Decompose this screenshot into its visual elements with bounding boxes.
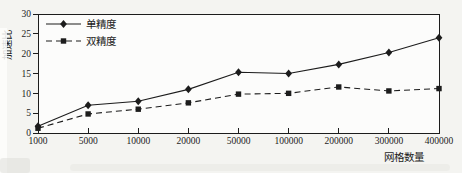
x-tick-label: 200000 — [325, 136, 354, 146]
square-marker — [136, 107, 141, 112]
y-tick-label: 30 — [22, 9, 32, 19]
y-tick-label: 20 — [22, 49, 32, 59]
x-tick-label: 20000 — [177, 136, 201, 146]
y-tick-label: 10 — [22, 89, 32, 99]
legend-item-label: 单精度 — [86, 18, 117, 30]
square-marker — [336, 84, 341, 89]
speedup-chart-figure: 0510152025301000500010000200005000010000… — [0, 0, 462, 173]
x-tick-label: 400000 — [425, 136, 454, 146]
line-chart: 0510152025301000500010000200005000010000… — [0, 0, 462, 173]
x-tick-label: 1000 — [29, 136, 48, 146]
x-tick-label: 300000 — [375, 136, 404, 146]
square-marker — [236, 91, 241, 96]
square-marker — [35, 126, 40, 131]
legend-square-marker — [61, 38, 66, 43]
square-marker — [436, 86, 441, 91]
y-axis-title: 加速比 — [1, 30, 13, 60]
x-tick-label: 100000 — [274, 136, 303, 146]
square-marker — [286, 91, 291, 96]
x-tick-label: 5000 — [79, 136, 98, 146]
legend-item-label: 双精度 — [86, 35, 117, 47]
x-tick-label: 50000 — [227, 136, 251, 146]
square-marker — [386, 88, 391, 93]
y-tick-label: 15 — [22, 69, 32, 79]
y-tick-label: 25 — [22, 29, 32, 39]
y-tick-label: 5 — [26, 108, 31, 118]
square-marker — [85, 111, 90, 116]
x-tick-label: 10000 — [126, 136, 150, 146]
x-axis-title: 网格数量 — [384, 151, 425, 163]
square-marker — [186, 100, 191, 105]
